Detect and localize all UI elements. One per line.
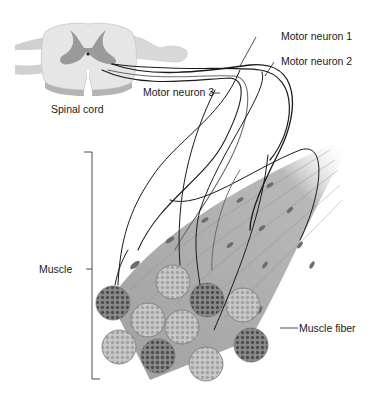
label-motor-neuron-1: Motor neuron 1 xyxy=(281,31,352,42)
label-spinal-cord: Spinal cord xyxy=(51,104,104,115)
label-muscle: Muscle xyxy=(39,264,72,275)
label-motor-neuron-3: Motor neuron 3 xyxy=(143,87,214,98)
label-muscle-fiber: Muscle fiber xyxy=(299,323,356,334)
label-motor-neuron-2: Motor neuron 2 xyxy=(281,56,352,67)
